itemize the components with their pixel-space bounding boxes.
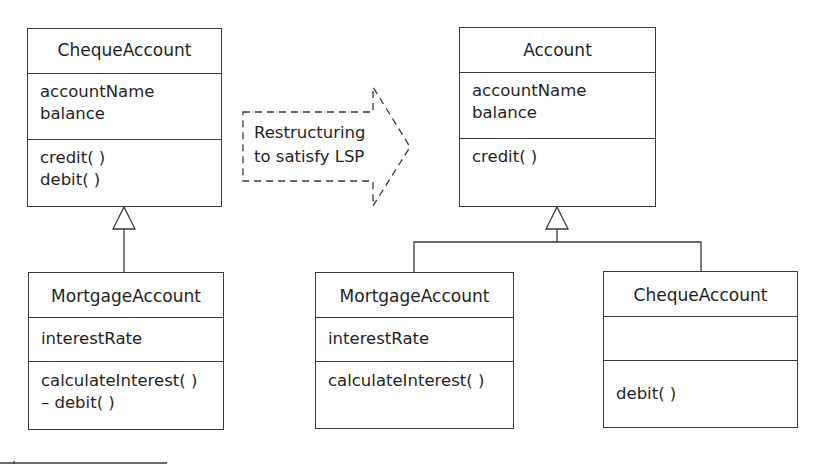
operation: debit( ) xyxy=(40,169,221,191)
class-attributes: interestRate xyxy=(316,317,513,362)
operation: calculateInterest( ) xyxy=(328,370,513,392)
class-operations: debit( ) xyxy=(604,360,797,427)
attribute: interestRate xyxy=(41,328,223,350)
right-generalization-arrow xyxy=(414,207,701,272)
class-operations: credit( ) xyxy=(460,138,655,206)
attribute: interestRate xyxy=(328,328,513,350)
attribute: accountName xyxy=(40,81,221,103)
operation: credit( ) xyxy=(472,146,655,168)
operation: – debit( ) xyxy=(41,392,223,414)
class-name: ChequeAccount xyxy=(604,272,797,317)
class-operations: calculateInterest( ) xyxy=(316,361,513,428)
class-operations: calculateInterest( ) – debit( ) xyxy=(29,361,223,429)
attribute: balance xyxy=(472,102,655,124)
operation: credit( ) xyxy=(40,147,221,169)
attribute: balance xyxy=(40,103,221,125)
restructuring-label: Restructuring to satisfy LSP xyxy=(254,121,365,169)
class-attributes: accountName balance xyxy=(28,73,221,140)
label-line-2: to satisfy LSP xyxy=(254,145,365,169)
operation: calculateInterest( ) xyxy=(41,370,223,392)
class-box-cheque-account-left: ChequeAccount accountName balance credit… xyxy=(27,28,222,207)
class-attributes: interestRate xyxy=(29,317,223,362)
class-operations: credit( ) debit( ) xyxy=(28,139,221,206)
class-name: MortgageAccount xyxy=(316,273,513,318)
class-attributes xyxy=(604,316,797,361)
class-box-mortgage-account-left: MortgageAccount interestRate calculateIn… xyxy=(28,272,224,430)
class-attributes: accountName balance xyxy=(460,72,655,139)
class-name: ChequeAccount xyxy=(28,29,221,74)
operation: debit( ) xyxy=(616,383,797,405)
class-name: Account xyxy=(460,28,655,73)
class-box-account: Account accountName balance credit( ) xyxy=(459,27,656,207)
class-box-mortgage-account-right: MortgageAccount interestRate calculateIn… xyxy=(315,272,514,429)
left-generalization-arrow xyxy=(113,207,135,272)
attribute: accountName xyxy=(472,80,655,102)
class-name: MortgageAccount xyxy=(29,273,223,318)
label-line-1: Restructuring xyxy=(254,121,365,145)
class-box-cheque-account-right: ChequeAccount debit( ) xyxy=(603,271,798,428)
